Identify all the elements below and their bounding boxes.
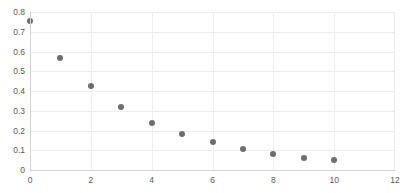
y-axis-tick-label: 0.4 bbox=[13, 87, 25, 96]
x-axis-tick-label: 4 bbox=[149, 176, 154, 185]
data-point bbox=[210, 139, 216, 145]
gridline-vertical bbox=[273, 12, 274, 170]
plot-area: 00.10.20.30.40.50.60.70.8 bbox=[30, 12, 395, 170]
data-point bbox=[301, 155, 307, 161]
y-axis-line bbox=[30, 12, 31, 170]
y-axis-tick-label: 0.7 bbox=[13, 28, 25, 37]
x-axis-tick-label: 2 bbox=[88, 176, 93, 185]
data-point bbox=[179, 131, 185, 137]
data-point bbox=[149, 120, 155, 126]
x-axis-line bbox=[30, 170, 395, 171]
y-axis-tick-label: 0.5 bbox=[13, 67, 25, 76]
gridline-vertical bbox=[91, 12, 92, 170]
y-axis-tick-label: 0.3 bbox=[13, 107, 25, 116]
gridline-vertical bbox=[334, 12, 335, 170]
y-axis-tick-label: 0.1 bbox=[13, 146, 25, 155]
data-point bbox=[118, 104, 124, 110]
x-axis-tick-label: 0 bbox=[28, 176, 33, 185]
y-axis-tick-label: 0.2 bbox=[13, 126, 25, 135]
data-point bbox=[88, 83, 94, 89]
chart-title bbox=[0, 0, 410, 2]
gridline-vertical bbox=[213, 12, 214, 170]
x-axis-tick-label: 8 bbox=[271, 176, 276, 185]
y-axis-tick-label: 0.8 bbox=[13, 8, 25, 17]
x-axis-tick-label: 6 bbox=[210, 176, 215, 185]
x-axis-tick-label: 12 bbox=[390, 176, 399, 185]
data-point bbox=[240, 146, 246, 152]
y-axis-tick-label: 0.6 bbox=[13, 47, 25, 56]
data-point bbox=[57, 55, 63, 61]
y-axis-tick-label: 0 bbox=[20, 166, 25, 175]
x-axis-tick-label: 10 bbox=[329, 176, 338, 185]
gridline-vertical bbox=[152, 12, 153, 170]
scatter-chart: 00.10.20.30.40.50.60.70.8 024681012 bbox=[0, 0, 410, 193]
data-point bbox=[331, 157, 337, 163]
data-point bbox=[270, 151, 276, 157]
